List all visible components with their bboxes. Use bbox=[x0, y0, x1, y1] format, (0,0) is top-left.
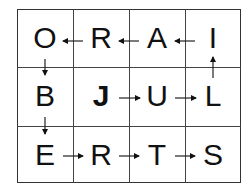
path-arrows bbox=[0, 0, 250, 193]
